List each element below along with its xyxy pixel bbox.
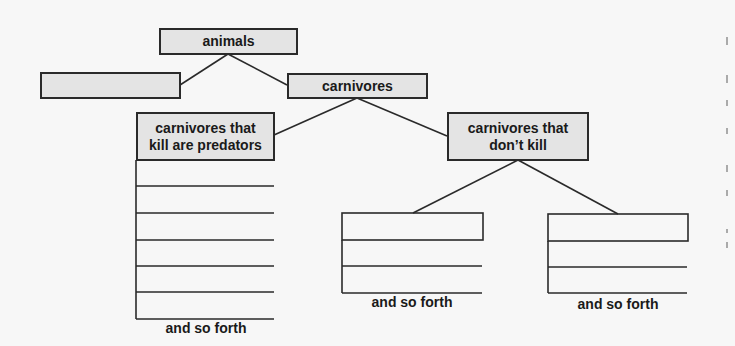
node-predators: carnivores that kill are predators <box>136 112 275 161</box>
node-predators-line2: kill are predators <box>149 137 262 154</box>
node-animals: animals <box>159 28 298 55</box>
scan-mark <box>726 190 728 196</box>
scan-mark <box>726 100 728 106</box>
node-carnivores-label: carnivores <box>322 78 393 95</box>
scan-mark <box>726 128 728 134</box>
node-animals-label: animals <box>202 33 254 50</box>
scan-mark <box>726 165 728 172</box>
scan-mark <box>726 75 728 83</box>
node-dont-kill-line2: don’t kill <box>489 137 547 154</box>
scan-mark <box>726 242 728 248</box>
node-dont-kill: carnivores that don’t kill <box>447 112 589 161</box>
caption-dont-kill-right: and so forth <box>548 296 688 312</box>
node-empty <box>40 72 181 99</box>
scan-mark <box>726 37 728 45</box>
scan-mark <box>726 229 728 233</box>
caption-dont-kill-left: and so forth <box>342 294 482 310</box>
node-dont-kill-line1: carnivores that <box>468 120 568 137</box>
node-predators-line1: carnivores that <box>155 120 255 137</box>
node-carnivores: carnivores <box>287 73 428 99</box>
caption-predators: and so forth <box>136 320 276 336</box>
